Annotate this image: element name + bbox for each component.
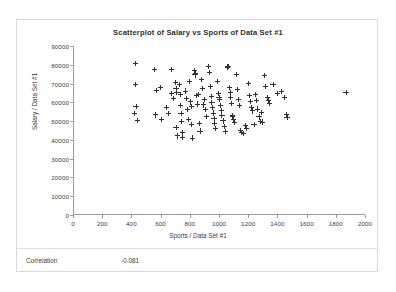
x-tick-label: 2000: [358, 220, 372, 227]
x-tick: [365, 215, 366, 218]
y-tick: [70, 196, 73, 197]
y-tick-label: 50000: [51, 118, 69, 125]
y-tick-label: 40000: [51, 136, 69, 143]
x-tick-label: 1000: [212, 220, 226, 227]
x-axis-title: Sports / Data Set #1: [17, 232, 379, 239]
x-tick-label: 1200: [241, 220, 255, 227]
x-tick-label: 200: [97, 220, 108, 227]
screenshot-page: Scatterplot of Salary vs Sports of Data …: [0, 0, 396, 292]
y-tick-label: 80000: [51, 61, 69, 68]
x-tick: [248, 215, 249, 218]
x-tick: [336, 215, 337, 218]
y-tick: [70, 159, 73, 160]
chart-title: Scatterplot of Salary vs Sports of Data …: [17, 28, 379, 37]
y-tick-label: 90000: [51, 43, 69, 50]
y-tick-label: 0: [65, 212, 69, 219]
x-tick: [102, 215, 103, 218]
x-tick: [219, 215, 220, 218]
footer-row: Correlation -0.081: [17, 248, 379, 272]
chart-card: Scatterplot of Salary vs Sports of Data …: [16, 19, 378, 272]
y-tick-label: 70000: [51, 80, 69, 87]
x-tick: [190, 215, 191, 218]
x-tick: [73, 215, 74, 218]
plot-area: 0100002000030000400005000060000700008000…: [73, 46, 365, 215]
x-tick-label: 0: [71, 220, 75, 227]
y-tick: [70, 102, 73, 103]
y-tick-label: 60000: [51, 99, 69, 106]
y-tick-label: 10000: [51, 193, 69, 200]
y-tick-label: 30000: [51, 155, 69, 162]
y-tick-label: 20000: [51, 174, 69, 181]
x-tick: [277, 215, 278, 218]
y-tick: [70, 84, 73, 85]
y-axis-title: Salary / Data Set #1: [31, 73, 38, 130]
correlation-label: Correlation: [26, 257, 57, 264]
x-tick: [307, 215, 308, 218]
x-tick-label: 400: [126, 220, 137, 227]
x-tick-label: 800: [184, 220, 195, 227]
y-tick: [70, 121, 73, 122]
x-tick-label: 1800: [329, 220, 343, 227]
correlation-value: -0.081: [121, 257, 139, 264]
x-tick-label: 600: [155, 220, 166, 227]
x-tick: [161, 215, 162, 218]
y-tick: [70, 177, 73, 178]
y-tick: [70, 65, 73, 66]
x-tick: [131, 215, 132, 218]
y-tick: [70, 46, 73, 47]
y-axis-line: [73, 46, 74, 215]
x-tick-label: 1600: [300, 220, 314, 227]
y-tick: [70, 140, 73, 141]
x-tick-label: 1400: [270, 220, 284, 227]
